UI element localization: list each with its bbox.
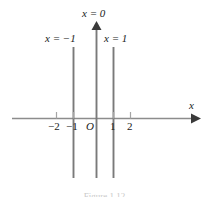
label-x-equals-minus-1: x = −1 bbox=[45, 33, 76, 44]
figure-caption: Figure 1.12 bbox=[0, 191, 209, 197]
y-axis-arrowhead bbox=[92, 21, 102, 30]
figure-container: x = 0 x = −1 x = 1 x −2 −1 O 1 2 Figure … bbox=[0, 0, 209, 197]
x-tick-label-2: 2 bbox=[127, 121, 133, 132]
x-tick-label-minus-2: −2 bbox=[48, 121, 60, 132]
origin-label: O bbox=[86, 121, 94, 132]
label-x-equals-0: x = 0 bbox=[82, 8, 105, 19]
coordinate-plane-svg bbox=[0, 0, 209, 197]
x-axis-arrowhead bbox=[191, 114, 201, 124]
label-x-equals-1: x = 1 bbox=[104, 33, 127, 44]
x-tick-label-1: 1 bbox=[110, 121, 116, 132]
x-axis-label: x bbox=[189, 100, 194, 111]
x-tick-label-minus-1: −1 bbox=[66, 121, 78, 132]
